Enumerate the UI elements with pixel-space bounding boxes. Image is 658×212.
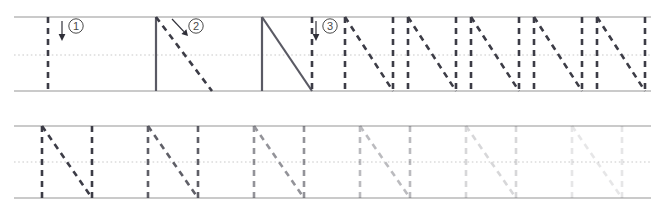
- letter-n-trace: [471, 17, 519, 91]
- letter-n-trace: [597, 17, 645, 91]
- letter-n-trace: [42, 126, 92, 198]
- letter-stroke-diagonal: [534, 17, 582, 91]
- step-number-label: 3: [327, 20, 333, 32]
- stroke-direction-arrow-icon: [59, 21, 66, 41]
- letter-stroke-diagonal: [597, 17, 645, 91]
- letter-stroke-diagonal: [471, 17, 519, 91]
- letter-stroke-diagonal: [572, 126, 622, 198]
- stroke-order-row: 123: [14, 17, 651, 91]
- letter-stroke-diagonal: [262, 17, 312, 91]
- letter-n-trace: [466, 126, 516, 198]
- step-number-badge: 3: [323, 19, 337, 33]
- stroke-guide-step-1: 1: [48, 17, 83, 91]
- worksheet-page: 123: [0, 0, 658, 212]
- letter-stroke-diagonal: [156, 17, 212, 91]
- stroke-direction-arrow-icon: [172, 19, 188, 36]
- letter-stroke-diagonal: [345, 17, 393, 91]
- stroke-guide-step-2: 2: [156, 17, 212, 91]
- letter-stroke-diagonal: [408, 17, 456, 91]
- arrow-head: [313, 34, 320, 41]
- worksheet-canvas: 123: [0, 0, 658, 212]
- letter-n-trace: [572, 126, 622, 198]
- arrow-shaft: [172, 19, 184, 32]
- arrow-head: [59, 34, 66, 41]
- letter-stroke-diagonal: [42, 126, 92, 198]
- stroke-direction-arrow-icon: [313, 21, 320, 41]
- step-number-badge: 2: [189, 19, 203, 33]
- letter-n-trace: [534, 17, 582, 91]
- step-number-label: 2: [193, 20, 199, 32]
- stroke-guide-step-3: 3: [262, 17, 337, 91]
- step-number-badge: 1: [69, 19, 83, 33]
- letter-n-trace: [408, 17, 456, 91]
- step-number-label: 1: [73, 20, 79, 32]
- fading-practice-row: [14, 126, 651, 198]
- letter-n-trace: [345, 17, 393, 91]
- letter-stroke-diagonal: [466, 126, 516, 198]
